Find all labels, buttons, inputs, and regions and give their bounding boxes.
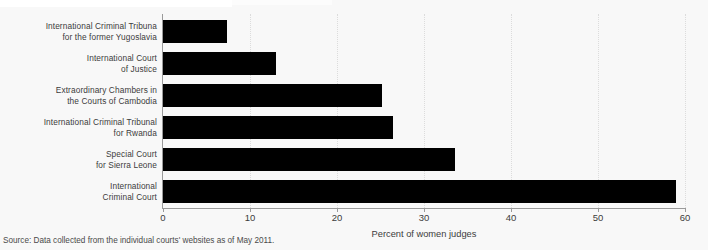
- category-label: International Criminal Tribunafor the fo…: [0, 21, 157, 42]
- category-label-line1: International Criminal Tribuna: [0, 21, 157, 32]
- category-label: Special Courtfor Sierra Leone: [0, 149, 157, 170]
- category-label-line1: International Court: [0, 53, 157, 64]
- bar[interactable]: [163, 180, 676, 203]
- category-label-line1: International Criminal Tribunal: [0, 117, 157, 128]
- bar[interactable]: [163, 148, 455, 171]
- gridline-50: [598, 14, 600, 208]
- plot-area: [163, 14, 685, 208]
- category-label-line2: of Justice: [0, 64, 157, 75]
- category-label-line2: for Sierra Leone: [0, 160, 157, 171]
- category-label-line1: International: [0, 181, 157, 192]
- x-tick-label: 30: [419, 212, 430, 223]
- category-label-line2: the Courts of Cambodia: [0, 96, 157, 107]
- x-tick-label: 60: [680, 212, 691, 223]
- x-tick-label: 20: [332, 212, 343, 223]
- source-note: Source: Data collected from the individu…: [3, 236, 274, 245]
- gridline-60: [685, 14, 687, 208]
- gridline-20: [337, 14, 339, 208]
- y-axis-line: [162, 14, 163, 208]
- chart-figure: International Criminal Tribunafor the fo…: [0, 0, 708, 250]
- category-axis-labels: International Criminal Tribunafor the fo…: [0, 14, 157, 208]
- category-label: International Criminal Tribunalfor Rwand…: [0, 117, 157, 138]
- gridline-30: [424, 14, 426, 208]
- bar[interactable]: [163, 84, 382, 107]
- top-white-band-secondary: [232, 0, 332, 5]
- gridline-40: [511, 14, 513, 208]
- bar[interactable]: [163, 20, 227, 43]
- x-tick-label: 10: [245, 212, 256, 223]
- category-label: InternationalCriminal Court: [0, 181, 157, 202]
- bar[interactable]: [163, 52, 276, 75]
- category-label-line2: for the former Yugoslavia: [0, 32, 157, 43]
- category-label-line1: Special Court: [0, 149, 157, 160]
- category-label: International Courtof Justice: [0, 53, 157, 74]
- category-label-line2: Criminal Court: [0, 192, 157, 203]
- x-tick-label: 0: [160, 212, 165, 223]
- category-label: Extraordinary Chambers inthe Courts of C…: [0, 85, 157, 106]
- category-label-line1: Extraordinary Chambers in: [0, 85, 157, 96]
- x-tick-label: 40: [506, 212, 517, 223]
- gridline-10: [250, 14, 252, 208]
- top-white-band: [0, 0, 232, 7]
- x-tick-label: 50: [593, 212, 604, 223]
- category-label-line2: for Rwanda: [0, 128, 157, 139]
- bar[interactable]: [163, 116, 393, 139]
